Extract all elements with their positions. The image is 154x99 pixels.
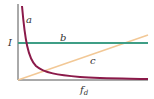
chart: I a b c fd (0, 0, 154, 99)
y-label: I (8, 38, 12, 48)
line-b-label: b (60, 33, 66, 43)
line-c-label: c (90, 56, 96, 66)
x-label: fd (80, 85, 88, 97)
chart-plot (0, 0, 154, 99)
x-label-subscript: d (84, 89, 88, 97)
curve-a-label: a (26, 15, 32, 25)
line-c (18, 35, 148, 80)
